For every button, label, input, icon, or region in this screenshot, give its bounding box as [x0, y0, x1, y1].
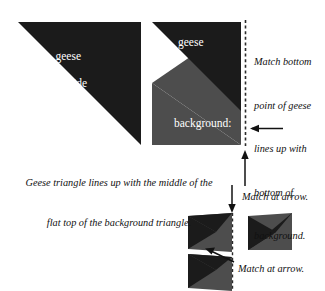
label-geese-right-side-up: geese right side up	[44, 36, 87, 158]
label-geese-middle: geese	[178, 36, 204, 50]
caption-right-note-line2: point of geese	[254, 99, 311, 114]
label-geese-right-side-up-line1: geese	[56, 50, 82, 62]
caption-middle-note-line2: flat top of the background triangle.	[8, 216, 230, 229]
diagram-canvas: geese right side up geese background: ri…	[0, 0, 325, 291]
caption-right-note-line5: background.	[254, 229, 311, 244]
label-geese-right-side-up-line2: right side	[44, 77, 87, 91]
caption-right-note: Match bottom point of geese lines up wit…	[254, 26, 311, 273]
label-geese-right-side-up-line3: up	[44, 117, 87, 131]
caption-middle-note: Geese triangle lines up with the middle …	[8, 150, 230, 256]
caption-arrow-note-bottom: Match at arrow.	[238, 262, 304, 275]
arrow-up-icon	[241, 150, 248, 186]
caption-middle-note-line1: Geese triangle lines up with the middle …	[8, 176, 230, 189]
caption-right-note-line3: lines up with	[254, 142, 311, 157]
flying-geese-unit-bottom	[188, 254, 232, 291]
caption-right-note-line1: Match bottom	[254, 55, 311, 70]
caption-arrow-note-top: Match at arrow.	[242, 190, 308, 203]
label-background-line1: background:	[174, 116, 231, 130]
